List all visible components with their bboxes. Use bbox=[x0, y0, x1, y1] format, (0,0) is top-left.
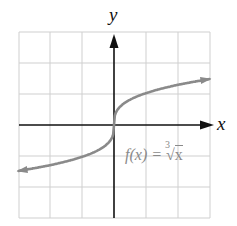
root-index: 3 bbox=[165, 139, 170, 150]
x-axis-label: x bbox=[217, 113, 225, 135]
y-axis-arrow-icon bbox=[110, 34, 119, 48]
function-label: f(x) = 3√x bbox=[125, 146, 183, 164]
y-axis-label: y bbox=[109, 4, 117, 26]
cube-root-graph bbox=[0, 0, 237, 226]
radicand: x bbox=[175, 145, 183, 163]
x-axis-arrow-icon bbox=[200, 121, 214, 130]
function-prefix: f(x) = bbox=[125, 146, 166, 163]
